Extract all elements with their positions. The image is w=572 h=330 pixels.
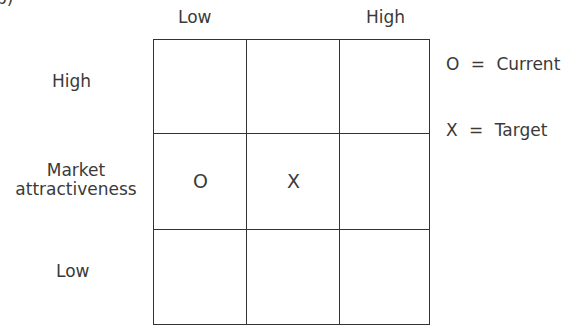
matrix-grid: O X [153, 39, 430, 325]
legend-target: X = Target [446, 121, 547, 140]
legend-current-label: Current [496, 54, 560, 74]
figure-label: b) [0, 0, 13, 8]
row-axis-label-line1: Market [6, 161, 146, 180]
row-axis-label-line2: attractiveness [6, 180, 146, 199]
legend-current-symbol: O [446, 54, 459, 74]
legend-equals: = [471, 54, 485, 74]
row-label-high: High [52, 72, 91, 91]
column-header-high: High [366, 8, 405, 27]
legend-equals: = [469, 120, 483, 140]
target-position-marker: X [247, 170, 340, 192]
current-position-marker: O [154, 170, 247, 192]
row-axis-label: Market attractiveness [6, 161, 146, 199]
legend-target-label: Target [495, 120, 548, 140]
column-header-low: Low [178, 8, 211, 27]
legend-current: O = Current [446, 55, 560, 74]
legend-target-symbol: X [446, 120, 458, 140]
grid-divider [154, 229, 429, 230]
grid-divider [154, 133, 429, 134]
row-label-low: Low [56, 262, 89, 281]
